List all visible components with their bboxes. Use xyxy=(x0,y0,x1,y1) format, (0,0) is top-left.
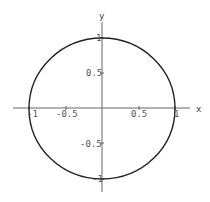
x-tick-label: 1 xyxy=(174,109,179,119)
y-tick-label: -0.5 xyxy=(80,139,102,149)
y-tick-label: 0.5 xyxy=(86,68,102,78)
x-tick-label: 0.5 xyxy=(131,109,147,119)
y-tick-label: 1 xyxy=(96,33,101,43)
x-axis-label: x xyxy=(196,104,202,114)
x-tick-label: -1 xyxy=(27,109,38,119)
plot: -1 -0.5 0.5 1 1 0.5 -0.5 -1 x y xyxy=(0,0,210,202)
y-axis-label: y xyxy=(99,11,105,21)
y-tick-label: -1 xyxy=(92,174,103,184)
x-tick-label: -0.5 xyxy=(56,109,78,119)
